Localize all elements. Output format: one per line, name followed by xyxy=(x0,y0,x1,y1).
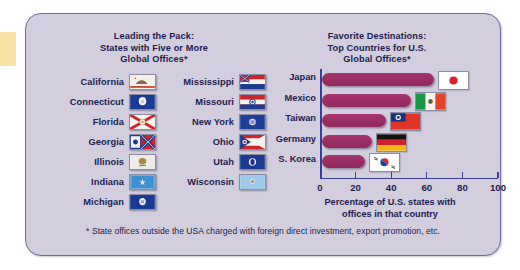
flag-georgia-icon xyxy=(129,134,156,150)
state-row: Illinois xyxy=(38,152,156,172)
state-name: California xyxy=(81,77,124,87)
state-row: California xyxy=(38,72,156,92)
state-name: Missouri xyxy=(195,97,234,107)
chart-bar xyxy=(322,135,372,148)
chart-bar xyxy=(322,94,411,107)
chart-x-tick xyxy=(497,172,498,178)
footnote: * State offices outside the USA charged … xyxy=(26,226,500,236)
chart-x-axis-title: Percentage of U.S. states with offices i… xyxy=(284,197,496,220)
flag-missouri-icon xyxy=(239,94,266,110)
chart-x-tick xyxy=(391,172,392,178)
chart-bar xyxy=(322,114,386,127)
state-row: Michigan xyxy=(38,192,156,212)
flag-south-korea-icon xyxy=(369,153,400,172)
chart-x-tick-label: 20 xyxy=(350,182,361,193)
chart-x-tick-label: 40 xyxy=(386,182,397,193)
left-heading-line-1: Leading the Pack: xyxy=(44,31,264,43)
infographic-root: Leading the Pack: States with Five or Mo… xyxy=(0,0,520,270)
chart-x-tick-label: 60 xyxy=(421,182,432,193)
left-accent-tab xyxy=(0,32,16,66)
state-name: Illinois xyxy=(94,157,124,167)
chart-x-tick-label: 100 xyxy=(490,182,506,193)
flag-illinois-icon xyxy=(129,154,156,170)
state-list-column-2: MississippiMissouriNew YorkOhioUtahWisco… xyxy=(156,72,266,192)
chart-bar xyxy=(322,155,365,168)
state-row: Florida xyxy=(38,112,156,132)
state-name: Wisconsin xyxy=(187,177,234,187)
flag-taiwan-icon xyxy=(390,112,421,131)
state-name: Utah xyxy=(213,157,234,167)
chart-x-tick xyxy=(462,172,463,178)
flag-california-icon xyxy=(129,74,156,90)
flag-japan-icon xyxy=(438,71,469,90)
state-row: Georgia xyxy=(38,132,156,152)
right-section-heading: Favorite Destinations: Top Countries for… xyxy=(270,31,484,66)
chart-x-tick xyxy=(426,172,427,178)
state-name: Ohio xyxy=(213,137,234,147)
flag-florida-icon xyxy=(129,114,156,130)
state-name: Indiana xyxy=(91,177,124,187)
flag-germany-icon xyxy=(376,133,407,152)
chart-x-tick-label: 0 xyxy=(317,182,322,193)
state-name: New York xyxy=(192,117,234,127)
state-name: Florida xyxy=(93,117,124,127)
state-name: Mississippi xyxy=(183,77,234,87)
chart-category-label: S. Korea xyxy=(278,154,316,164)
state-row: Ohio xyxy=(156,132,266,152)
state-row: Mississippi xyxy=(156,72,266,92)
state-row: Wisconsin xyxy=(156,172,266,192)
right-heading-line-1: Favorite Destinations: xyxy=(270,31,484,43)
right-heading-line-3: Global Offices* xyxy=(270,54,484,66)
chart-x-tick xyxy=(355,172,356,178)
state-row: Connecticut xyxy=(38,92,156,112)
left-heading-line-3: Global Offices* xyxy=(44,54,264,66)
flag-mexico-icon xyxy=(415,92,446,111)
chart-plot-area xyxy=(320,69,498,179)
chart-category-label: Japan xyxy=(289,72,316,82)
flag-mississippi-icon xyxy=(239,74,266,90)
flag-utah-icon xyxy=(239,154,266,170)
state-row: Utah xyxy=(156,152,266,172)
flag-connecticut-icon xyxy=(129,94,156,110)
right-heading-line-2: Top Countries for U.S. xyxy=(270,43,484,55)
chart-category-label: Taiwan xyxy=(285,113,316,123)
chart-x-tick-label: 80 xyxy=(457,182,468,193)
left-heading-line-2: States with Five or More xyxy=(44,43,264,55)
state-list-column-1: CaliforniaConnecticutFloridaGeorgiaIllin… xyxy=(38,72,156,212)
flag-wisconsin-icon xyxy=(239,174,266,190)
chart-x-axis-line xyxy=(320,178,498,180)
state-name: Georgia xyxy=(89,137,124,147)
chart-bar xyxy=(322,73,434,86)
x-axis-title-line-1: Percentage of U.S. states with xyxy=(284,197,496,209)
state-row: New York xyxy=(156,112,266,132)
flag-michigan-icon xyxy=(129,194,156,210)
flag-indiana-icon xyxy=(129,174,156,190)
left-section-heading: Leading the Pack: States with Five or Mo… xyxy=(44,31,264,66)
flag-ohio-icon xyxy=(239,134,266,150)
infographic-panel: Leading the Pack: States with Five or Mo… xyxy=(25,13,501,256)
state-name: Connecticut xyxy=(70,97,124,107)
state-row: Missouri xyxy=(156,92,266,112)
flag-new-york-icon xyxy=(239,114,266,130)
state-row: Indiana xyxy=(38,172,156,192)
chart-category-label: Mexico xyxy=(284,93,316,103)
state-name: Michigan xyxy=(83,197,124,207)
x-axis-title-line-2: offices in that country xyxy=(284,209,496,221)
chart-category-label: Germany xyxy=(276,134,316,144)
bar-chart: JapanMexicoTaiwanGermanyS. Korea 0204060… xyxy=(264,69,496,229)
